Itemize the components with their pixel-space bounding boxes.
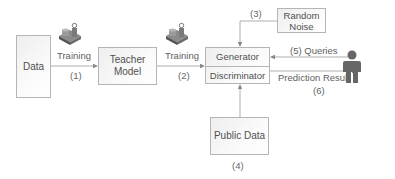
edge-3-step: (3): [250, 8, 262, 19]
edge-1-label: Training: [57, 50, 91, 61]
edge-2-step: (2): [178, 70, 190, 81]
gan-node: Generator Discriminator: [205, 47, 270, 84]
edge-6-label: Prediction Result: [278, 72, 350, 83]
edge-2-label: Training: [165, 50, 199, 61]
teacher-label-line2: Model: [114, 66, 141, 78]
data-node-label: Data: [23, 61, 44, 73]
person-icon: [342, 50, 362, 84]
discriminator-label: Discriminator: [210, 70, 265, 82]
public-data-label: Public Data: [214, 130, 265, 142]
noise-label-line2: Noise: [289, 21, 313, 32]
machine-icon: [164, 22, 190, 46]
discriminator-section: Discriminator: [206, 67, 269, 84]
teacher-label-line1: Teacher: [110, 54, 146, 66]
public-data-node: Public Data: [210, 117, 269, 155]
edge-1-step: (1): [70, 70, 82, 81]
noise-label-line1: Random: [284, 10, 320, 21]
machine-icon: [57, 22, 83, 46]
data-node: Data: [16, 35, 51, 98]
edge-6-step: (6): [313, 85, 325, 96]
edge-4-step: (4): [232, 160, 244, 171]
random-noise-node: Random Noise: [277, 8, 326, 33]
teacher-model-node: Teacher Model: [98, 47, 157, 85]
generator-label: Generator: [216, 51, 259, 63]
generator-section: Generator: [206, 48, 269, 66]
edge-5-label: (5) Queries: [290, 45, 338, 56]
